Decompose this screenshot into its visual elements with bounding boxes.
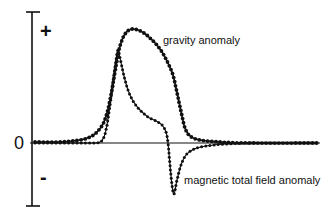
data-point-marker [160,49,164,53]
data-point-marker [55,142,58,145]
data-point-marker [34,142,37,145]
data-point-marker [146,115,149,118]
data-point-marker [183,125,187,129]
data-point-marker [134,28,138,32]
data-point-marker [63,142,66,145]
data-point-marker [206,139,210,143]
data-point-marker [110,91,113,94]
data-point-marker [118,52,121,55]
data-point-marker [280,141,283,144]
data-point-marker [263,142,266,145]
series-line [35,50,318,194]
data-point-marker [259,142,262,145]
data-point-marker [267,141,270,144]
data-point-marker [157,46,161,50]
data-point-marker [178,168,181,171]
data-point-marker [169,173,172,176]
data-point-marker [42,142,45,145]
data-point-marker [284,141,287,144]
data-point-marker [182,121,186,125]
data-point-marker [38,142,41,145]
data-point-marker [210,140,214,144]
data-point-marker [217,143,220,146]
data-point-marker [123,77,126,80]
data-point-marker [292,141,295,144]
data-point-marker [183,156,186,159]
data-point-marker [192,148,195,151]
data-point-marker [102,136,105,139]
data-point-marker [166,60,170,64]
data-point-marker [161,124,164,127]
data-point-marker [297,142,300,145]
data-point-marker [118,43,122,47]
data-point-marker [103,117,107,121]
data-point-marker [114,66,117,69]
data-point-marker [309,142,312,145]
data-point-marker [118,56,121,59]
data-point-marker [124,32,128,36]
data-point-marker [67,142,70,145]
data-point-marker [130,96,133,99]
data-point-marker [177,172,180,175]
data-point-marker [121,68,124,71]
data-point-marker [97,141,100,144]
series-layer [33,27,319,195]
data-point-marker [193,137,197,141]
data-point-marker [170,177,173,180]
data-point-marker [80,142,83,145]
data-point-marker [162,53,166,57]
data-point-marker [172,76,176,80]
y-minus-label: - [40,166,47,189]
data-point-marker [163,127,166,130]
data-point-marker [255,142,258,145]
gravity-anomaly-label: gravity anomaly [163,34,240,46]
data-point-marker [174,84,178,88]
data-point-marker [109,103,112,106]
data-point-marker [225,142,228,145]
data-point-marker [196,146,199,149]
data-point-marker [181,117,185,121]
data-point-marker [71,142,74,145]
data-point-marker [150,117,153,120]
data-point-marker [186,132,190,136]
data-point-marker [109,99,112,102]
data-point-marker [175,180,178,183]
data-point-marker [229,142,232,145]
data-point-marker [185,153,188,156]
data-point-marker [46,142,49,145]
data-point-marker [189,150,192,153]
data-point-marker [175,88,179,92]
data-point-marker [84,142,87,145]
data-point-marker [271,141,274,144]
data-point-marker [276,141,279,144]
data-point-marker [184,129,188,133]
data-point-marker [288,141,291,144]
data-point-marker [174,184,177,187]
data-point-marker [313,142,316,145]
data-point-marker [50,142,53,145]
data-point-marker [111,86,114,89]
y-zero-label: 0 [14,133,24,154]
data-point-marker [142,31,146,35]
data-point-marker [124,81,127,84]
data-point-marker [132,100,135,103]
data-point-marker [140,110,143,113]
data-point-marker [102,121,106,125]
data-point-marker [202,139,206,143]
data-point-marker [165,131,168,134]
data-point-marker [149,37,153,41]
data-point-marker [246,142,249,145]
data-point-marker [108,107,111,110]
data-point-marker [169,168,172,171]
data-point-marker [100,140,103,143]
data-point-marker [107,115,110,118]
data-point-marker [167,143,170,146]
y-plus-label: + [40,20,52,43]
data-point-marker [111,82,114,85]
data-point-marker [167,147,170,150]
data-point-marker [120,64,123,67]
data-point-marker [112,78,115,81]
data-point-marker [177,100,181,104]
data-point-marker [204,145,207,148]
data-point-marker [91,134,95,138]
